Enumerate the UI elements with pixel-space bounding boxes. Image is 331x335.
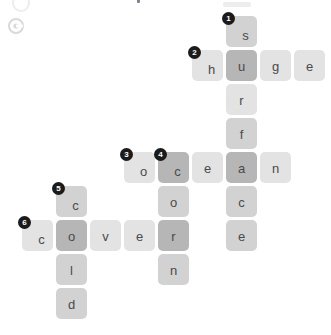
crossword-cell[interactable]: r <box>158 220 189 251</box>
cell-letter: l <box>70 264 73 277</box>
cell-letter: n <box>170 264 177 277</box>
cell-letter: o <box>68 230 75 243</box>
crossword-cell[interactable]: u <box>226 50 257 81</box>
crossword-cell[interactable]: 1s <box>226 16 257 47</box>
cell-letter: e <box>204 162 211 175</box>
crossword-cell[interactable]: v <box>90 220 121 251</box>
crossword-cell[interactable]: n <box>260 152 291 183</box>
clue-number: 1 <box>222 12 235 25</box>
crossword-cell[interactable]: 4c <box>158 152 189 183</box>
crossword-cell[interactable]: 3o <box>124 152 155 183</box>
cell-letter: d <box>68 298 75 311</box>
cell-letter: f <box>240 128 244 141</box>
cell-letter: c <box>38 233 45 246</box>
cell-letter: e <box>306 60 313 73</box>
cell-letter: c <box>174 165 181 178</box>
cell-letter: c <box>238 196 245 209</box>
cell-letter: r <box>239 94 243 107</box>
cell-letter: o <box>140 165 147 178</box>
clue-number: 4 <box>154 148 167 161</box>
clipped-tile-fragment <box>223 2 251 7</box>
crossword-cell[interactable]: n <box>158 254 189 285</box>
crossword-cell[interactable]: o <box>158 186 189 217</box>
clue-number: 5 <box>52 182 65 195</box>
clue-number: 6 <box>18 216 31 229</box>
cell-letter: n <box>272 162 279 175</box>
cell-letter: r <box>171 230 175 243</box>
cell-letter: c <box>72 199 79 212</box>
cell-letter: v <box>102 230 109 243</box>
cell-letter: s <box>242 29 249 42</box>
crossword-cell[interactable]: 6c <box>22 220 53 251</box>
crossword-cell[interactable]: a <box>226 152 257 183</box>
cell-letter: o <box>170 196 177 209</box>
cell-letter: e <box>238 230 245 243</box>
info-circle-icon[interactable] <box>8 18 24 34</box>
clue-number: 2 <box>188 46 201 59</box>
crossword-cell[interactable]: 5c <box>56 186 87 217</box>
crossword-puzzle: 1s2hugerf3o4cean5coc6coverelnd <box>0 0 331 335</box>
clipped-text-fragment <box>137 0 140 3</box>
crossword-cell[interactable]: o <box>56 220 87 251</box>
cell-letter: h <box>208 63 215 76</box>
crossword-cell[interactable]: f <box>226 118 257 149</box>
crossword-cell[interactable]: e <box>192 152 223 183</box>
crossword-cell[interactable]: e <box>124 220 155 251</box>
crossword-cell[interactable]: r <box>226 84 257 115</box>
crossword-cell[interactable]: e <box>294 50 325 81</box>
crossword-cell[interactable]: 2h <box>192 50 223 81</box>
crossword-cell[interactable]: g <box>260 50 291 81</box>
clipped-circle-icon <box>12 0 30 12</box>
crossword-cell[interactable]: d <box>56 288 87 319</box>
crossword-cell[interactable]: l <box>56 254 87 285</box>
crossword-cell[interactable]: c <box>226 186 257 217</box>
cell-letter: u <box>238 60 245 73</box>
crossword-cell[interactable]: e <box>226 220 257 251</box>
cell-letter: e <box>136 230 143 243</box>
cell-letter: g <box>272 60 279 73</box>
clue-number: 3 <box>120 148 133 161</box>
clipped-top-content <box>0 0 331 12</box>
cell-letter: a <box>238 162 245 175</box>
